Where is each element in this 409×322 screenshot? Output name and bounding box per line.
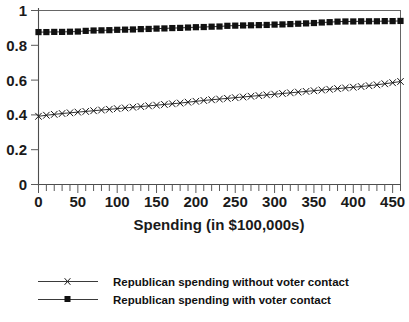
y-tick-label: 0.4 xyxy=(6,106,28,123)
data-point-square-marker xyxy=(264,22,270,28)
data-point-square-marker xyxy=(130,26,136,32)
data-point-square-marker xyxy=(185,24,191,30)
data-point-square-marker xyxy=(224,23,230,29)
legend-label-1: Republican spending without voter contac… xyxy=(113,276,349,288)
data-point-square-marker xyxy=(319,19,325,25)
data-point-square-marker xyxy=(256,22,262,28)
y-tick-label: 0 xyxy=(19,176,27,193)
data-point-square-marker xyxy=(98,27,104,33)
x-tick-label: 0 xyxy=(34,193,42,210)
data-point-square-marker xyxy=(358,18,364,24)
y-tick-label: 0.8 xyxy=(6,37,27,54)
data-point-square-marker xyxy=(240,22,246,28)
data-point-square-marker xyxy=(67,29,73,35)
data-point-square-marker xyxy=(232,23,238,29)
x-tick-label: 150 xyxy=(144,193,169,210)
data-point-square-marker xyxy=(390,18,396,24)
data-point-square-marker xyxy=(287,21,293,27)
data-point-square-marker xyxy=(161,25,167,31)
legend-label-2: Republican spending with voter contact xyxy=(113,294,331,306)
data-point-square-marker xyxy=(311,20,317,26)
data-point-square-marker xyxy=(366,18,372,24)
data-point-square-marker xyxy=(43,29,49,35)
data-point-square-marker xyxy=(350,18,356,24)
legend-marker-square-icon xyxy=(65,296,71,302)
data-point-square-marker xyxy=(169,25,175,31)
x-tick-label: 200 xyxy=(183,193,208,210)
x-axis-title: Spending (in $100,000s) xyxy=(134,216,305,233)
x-tick-label: 450 xyxy=(380,193,405,210)
data-point-square-marker xyxy=(334,19,340,25)
x-tick-label: 100 xyxy=(105,193,130,210)
line-chart: 00.20.40.60.81 0501001502002503003504004… xyxy=(0,0,409,322)
data-point-square-marker xyxy=(397,18,403,24)
y-tick-label: 0.2 xyxy=(6,141,27,158)
data-point-square-marker xyxy=(122,27,128,33)
x-tick-label: 350 xyxy=(301,193,326,210)
data-point-square-marker xyxy=(295,21,301,27)
data-point-square-marker xyxy=(327,19,333,25)
data-point-square-marker xyxy=(382,18,388,24)
data-point-square-marker xyxy=(75,28,81,34)
data-point-square-marker xyxy=(201,24,207,30)
chart-figure: 00.20.40.60.81 0501001502002503003504004… xyxy=(0,0,409,322)
data-point-square-marker xyxy=(153,26,159,32)
data-point-square-marker xyxy=(303,20,309,26)
data-point-square-marker xyxy=(209,24,215,30)
data-point-square-marker xyxy=(271,21,277,27)
y-tick-label: 0.6 xyxy=(6,72,27,89)
data-point-square-marker xyxy=(216,23,222,29)
data-point-square-marker xyxy=(193,24,199,30)
data-point-square-marker xyxy=(59,29,65,35)
data-point-square-marker xyxy=(90,27,96,33)
data-point-square-marker xyxy=(146,26,152,32)
data-point-square-marker xyxy=(35,29,41,35)
y-tick-label: 1 xyxy=(19,2,27,19)
x-tick-label: 50 xyxy=(70,193,87,210)
data-point-square-marker xyxy=(177,25,183,31)
x-tick-label: 400 xyxy=(341,193,366,210)
data-point-square-marker xyxy=(138,26,144,32)
x-tick-label: 250 xyxy=(223,193,248,210)
data-point-square-marker xyxy=(374,18,380,24)
data-point-square-marker xyxy=(279,21,285,27)
data-point-square-marker xyxy=(342,18,348,24)
data-point-square-marker xyxy=(83,28,89,34)
data-point-square-marker xyxy=(114,27,120,33)
x-tick-label: 300 xyxy=(262,193,287,210)
data-point-square-marker xyxy=(106,27,112,33)
data-point-square-marker xyxy=(248,22,254,28)
data-point-square-marker xyxy=(51,29,57,35)
chart-background xyxy=(0,0,409,322)
